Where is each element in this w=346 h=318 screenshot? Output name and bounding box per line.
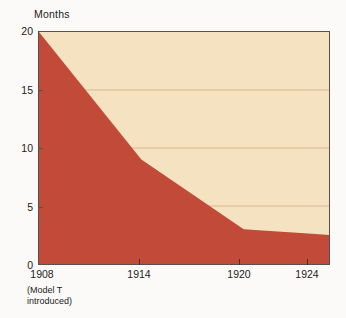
x-tick-mark-1920	[239, 259, 240, 265]
y-tick-label-15: 15	[7, 84, 33, 96]
y-tick-label-5: 5	[7, 201, 33, 213]
plot-svg	[39, 32, 329, 264]
x-tick-label-1908: 1908	[30, 268, 53, 280]
y-tick-label-10: 10	[7, 142, 33, 154]
y-tick-label-20: 20	[7, 25, 33, 37]
x-tick-label-1924: 1924	[295, 268, 318, 280]
y-tick-mark-10	[38, 148, 43, 149]
y-axis-ticks: 20 15 10 5 0	[0, 0, 33, 318]
x-tick-label-1914: 1914	[127, 268, 150, 280]
y-axis-title: Months	[34, 8, 70, 20]
y-tick-mark-15	[38, 90, 43, 91]
x-tick-mark-1924	[307, 259, 308, 265]
area-chart: Months 20 15 10 5 0 1908 1914 1920 1924 …	[0, 0, 346, 318]
y-tick-mark-5	[38, 207, 43, 208]
x-axis-note-line-2: introduced)	[27, 296, 72, 307]
x-tick-mark-1914	[139, 259, 140, 265]
x-axis-note-line-1: (Model T	[27, 285, 62, 296]
x-tick-label-1920: 1920	[227, 268, 250, 280]
plot-area	[38, 31, 330, 265]
y-tick-label-0: 0	[7, 259, 33, 271]
